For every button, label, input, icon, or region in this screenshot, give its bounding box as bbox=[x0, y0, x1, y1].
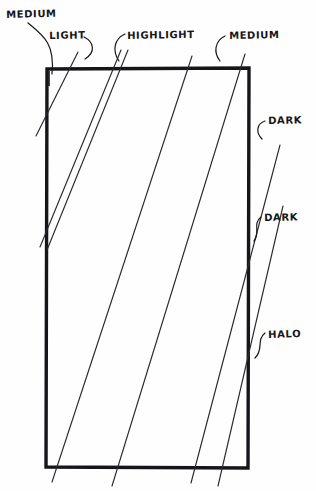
streak-line-6 bbox=[191, 145, 280, 483]
streak-line-7 bbox=[218, 206, 283, 486]
leader-line-halo bbox=[255, 333, 265, 358]
leader-line-highlight bbox=[115, 34, 125, 61]
streak-line-1 bbox=[36, 52, 78, 136]
streak-line-4 bbox=[52, 56, 192, 482]
diagram-svg bbox=[0, 0, 316, 491]
streak-line-2 bbox=[40, 50, 121, 247]
streak-line-3 bbox=[47, 50, 128, 250]
label-dark-lower: DARK bbox=[264, 212, 298, 223]
label-medium-topleft: MEDIUM bbox=[6, 9, 57, 20]
label-halo: HALO bbox=[268, 329, 301, 340]
leader-line-dark-upper bbox=[258, 121, 265, 139]
label-medium-topright: MEDIUM bbox=[229, 30, 280, 41]
label-dark-upper: DARK bbox=[268, 115, 302, 126]
sketch-canvas: MEDIUM LIGHT HIGHLIGHT MEDIUM DARK DARK … bbox=[0, 0, 316, 491]
leader-line-medium-topright bbox=[216, 36, 225, 61]
streak-line-5 bbox=[112, 54, 245, 486]
label-light: LIGHT bbox=[49, 30, 86, 41]
label-highlight: HIGHLIGHT bbox=[127, 30, 195, 41]
streak-line-group bbox=[36, 50, 283, 486]
